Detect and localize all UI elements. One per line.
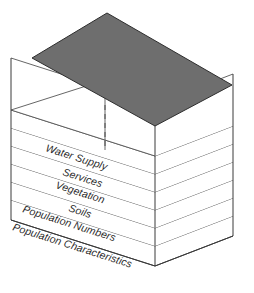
layered-block-diagram: Water Supply Services Vegetation Soils P… (0, 0, 254, 293)
isometric-diagram-canvas: Water Supply Services Vegetation Soils P… (0, 0, 254, 293)
